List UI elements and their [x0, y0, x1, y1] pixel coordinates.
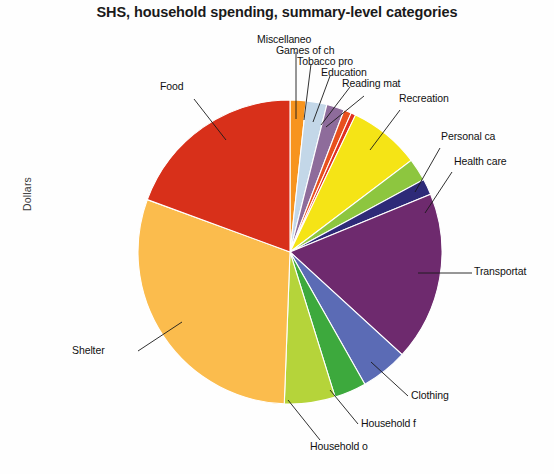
slice-label-clothing: Clothing	[411, 389, 449, 401]
leader-line-personal-care	[415, 148, 440, 192]
pie-slice-group	[138, 100, 442, 404]
slice-label-household-operations: Household o	[310, 440, 368, 452]
slice-label-transportation: Transportat	[474, 265, 526, 277]
leader-line-household-operations	[288, 400, 320, 440]
leader-line-household-furnishings	[330, 390, 358, 424]
pie-chart-canvas	[0, 0, 554, 474]
slice-label-shelter: Shelter	[72, 344, 105, 356]
slice-label-food: Food	[160, 80, 184, 92]
slice-label-recreation: Recreation	[399, 92, 449, 104]
pie-chart-figure: SHS, household spending, summary-level c…	[0, 0, 554, 474]
slice-label-reading-materials: Reading mat	[342, 77, 400, 89]
slice-label-health-care: Health care	[454, 155, 507, 167]
slice-label-household-furnishings: Household f	[361, 417, 416, 429]
slice-label-personal-care: Personal ca	[441, 130, 495, 142]
